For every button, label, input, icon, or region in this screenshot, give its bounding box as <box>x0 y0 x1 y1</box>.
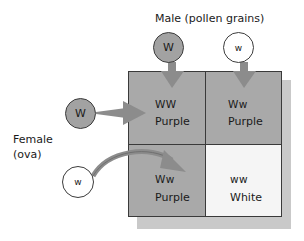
female-label-line1: Female <box>13 133 53 147</box>
male-gamete-w: w <box>223 32 254 63</box>
allele-label: w <box>74 177 81 187</box>
punnett-grid: WW Purple Ww Purple Ww Purple ww White <box>128 71 282 217</box>
cell-WW: WW Purple <box>129 72 206 145</box>
female-label-line2: (ova) <box>13 148 42 162</box>
allele-label: w <box>235 43 242 53</box>
female-gamete-W: W <box>65 98 96 129</box>
cell-ww: ww White <box>206 145 281 216</box>
cell-Ww-bottom: Ww Purple <box>129 145 206 216</box>
cell-genotype: WW <box>155 96 176 113</box>
cell-genotype: ww <box>230 171 248 188</box>
male-gamete-W: W <box>153 32 184 63</box>
allele-label: W <box>75 107 86 120</box>
allele-label: W <box>163 41 174 54</box>
cell-genotype: Ww <box>155 171 175 188</box>
cell-genotype: Ww <box>228 96 248 113</box>
cell-phenotype: Purple <box>155 113 190 130</box>
cell-Ww-top: Ww Purple <box>206 72 281 145</box>
male-label: Male (pollen grains) <box>155 12 264 26</box>
female-gamete-w: w <box>62 166 94 198</box>
cell-phenotype: Purple <box>155 189 190 206</box>
cell-phenotype: Purple <box>228 113 263 130</box>
cell-phenotype: White <box>230 189 262 206</box>
